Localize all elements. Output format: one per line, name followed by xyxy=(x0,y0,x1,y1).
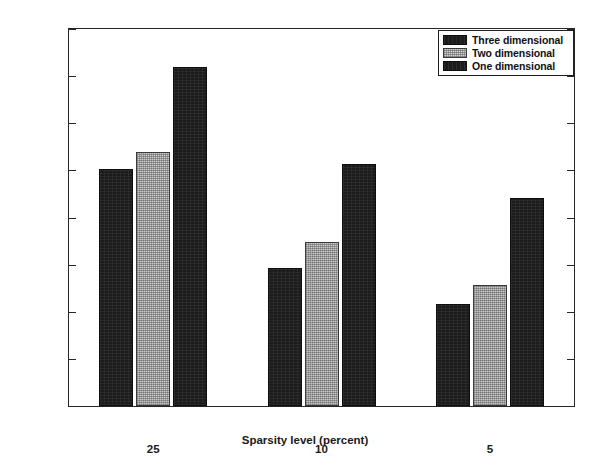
y-axis-tick-mark xyxy=(69,218,76,219)
y-axis-tick-mark xyxy=(567,312,574,313)
y-axis-tick-mark xyxy=(69,312,76,313)
y-axis-tick-mark xyxy=(567,76,574,77)
bar-chart-figure: Time (s) Sparsity level (percent) 010203… xyxy=(0,0,610,465)
y-axis-tick-mark xyxy=(567,123,574,124)
bar xyxy=(436,304,470,406)
legend-item-two-dimensional: Two dimensional xyxy=(443,47,569,59)
legend-label-one-dimensional: One dimensional xyxy=(472,60,555,72)
legend-item-three-dimensional: Three dimensional xyxy=(443,34,569,46)
legend-swatch-icon-one-dimensional xyxy=(443,61,467,71)
x-axis-tick-label: 5 xyxy=(460,443,520,455)
bar xyxy=(473,285,507,406)
legend-item-one-dimensional: One dimensional xyxy=(443,60,569,72)
bar xyxy=(173,67,207,406)
legend-swatch-icon-two-dimensional xyxy=(443,48,467,58)
y-axis-tick-mark xyxy=(69,406,76,407)
plot-frame: 0102030405060708025105 xyxy=(68,28,575,407)
plot-area: 0102030405060708025105 xyxy=(69,29,574,406)
y-axis-tick-mark xyxy=(69,29,76,30)
legend-label-two-dimensional: Two dimensional xyxy=(472,47,555,59)
y-axis-tick-mark xyxy=(567,170,574,171)
legend-label-three-dimensional: Three dimensional xyxy=(472,34,563,46)
bar xyxy=(268,268,302,406)
x-axis-tick-label: 10 xyxy=(292,443,352,455)
bar xyxy=(99,169,133,406)
y-axis-tick-mark xyxy=(567,265,574,266)
y-axis-tick-mark xyxy=(567,218,574,219)
chart-legend: Three dimensional Two dimensional One di… xyxy=(438,30,574,76)
x-axis-tick-label: 25 xyxy=(123,443,183,455)
y-axis-tick-mark xyxy=(567,406,574,407)
bar xyxy=(342,164,376,406)
y-axis-tick-mark xyxy=(69,76,76,77)
bar xyxy=(136,152,170,406)
y-axis-tick-mark xyxy=(69,123,76,124)
y-axis-tick-mark xyxy=(567,359,574,360)
y-axis-tick-mark xyxy=(69,170,76,171)
y-axis-tick-mark xyxy=(69,265,76,266)
bar xyxy=(305,242,339,406)
bar xyxy=(510,198,544,406)
y-axis-tick-mark xyxy=(69,359,76,360)
legend-swatch-icon-three-dimensional xyxy=(443,35,467,45)
